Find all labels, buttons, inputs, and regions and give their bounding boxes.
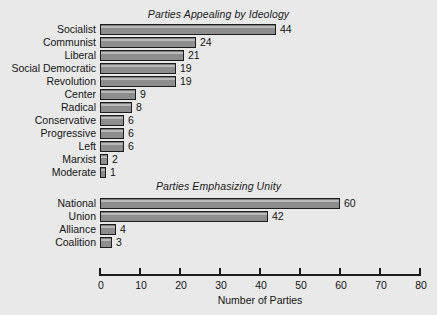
bar-row: National60 bbox=[0, 198, 437, 209]
bar-category-label: Marxist bbox=[0, 154, 96, 165]
bar-category-label: Union bbox=[0, 211, 96, 222]
x-axis-tick-label: 0 bbox=[81, 279, 121, 291]
bar bbox=[100, 76, 176, 87]
bar-row: Radical8 bbox=[0, 102, 437, 113]
bar bbox=[100, 63, 176, 74]
x-axis-tick-label: 80 bbox=[401, 279, 437, 291]
bar-category-label: Coalition bbox=[0, 237, 96, 248]
bar-row: Conservative6 bbox=[0, 115, 437, 126]
bar-category-label: National bbox=[0, 198, 96, 209]
x-axis-tick-label: 20 bbox=[161, 279, 201, 291]
bar-row: Marxist2 bbox=[0, 154, 437, 165]
bar-value-label: 4 bbox=[120, 224, 126, 235]
bar-category-label: Socialist bbox=[0, 24, 96, 35]
bar-row: Revolution19 bbox=[0, 76, 437, 87]
panel-bottom-title: Parties Emphasizing Unity bbox=[0, 180, 437, 192]
bar-category-label: Left bbox=[0, 141, 96, 152]
bar bbox=[100, 89, 136, 100]
panel-top-title: Parties Appealing by Ideology bbox=[0, 8, 437, 20]
bar-category-label: Progressive bbox=[0, 128, 96, 139]
bar-row: Communist24 bbox=[0, 37, 437, 48]
panel-parties-appealing-by-ideology: Parties Appealing by Ideology Socialist4… bbox=[0, 0, 437, 170]
bar-row: Center9 bbox=[0, 89, 437, 100]
bar-value-label: 19 bbox=[180, 63, 192, 74]
bar-value-label: 42 bbox=[272, 211, 284, 222]
x-axis-tick-label: 70 bbox=[361, 279, 401, 291]
bar-row: Socialist44 bbox=[0, 24, 437, 35]
bar-row: Social Democratic19 bbox=[0, 63, 437, 74]
bar bbox=[100, 198, 340, 209]
bar-row: Union42 bbox=[0, 211, 437, 222]
bar-row: Alliance4 bbox=[0, 224, 437, 235]
bar-value-label: 44 bbox=[280, 24, 292, 35]
x-axis-tick bbox=[299, 268, 301, 276]
x-axis-tick-label: 40 bbox=[241, 279, 281, 291]
x-axis-tick-label: 50 bbox=[281, 279, 321, 291]
bar bbox=[100, 37, 196, 48]
bar-row: Progressive6 bbox=[0, 128, 437, 139]
x-axis-tick-label: 60 bbox=[321, 279, 361, 291]
bar bbox=[100, 224, 116, 235]
x-axis-tick bbox=[419, 268, 421, 276]
bar-value-label: 24 bbox=[200, 37, 212, 48]
bar-category-label: Social Democratic bbox=[0, 63, 96, 74]
bar-category-label: Center bbox=[0, 89, 96, 100]
bar bbox=[100, 115, 124, 126]
bar-value-label: 6 bbox=[128, 128, 134, 139]
bar bbox=[100, 24, 276, 35]
x-axis-tick-label: 10 bbox=[121, 279, 161, 291]
bar-row: Liberal21 bbox=[0, 50, 437, 61]
x-axis-tick bbox=[219, 268, 221, 276]
x-axis: 01020304050607080 Number of Parties bbox=[0, 266, 437, 306]
x-axis-tick bbox=[259, 268, 261, 276]
bar-value-label: 6 bbox=[128, 115, 134, 126]
bar-category-label: Radical bbox=[0, 102, 96, 113]
bar-category-label: Liberal bbox=[0, 50, 96, 61]
bar-value-label: 19 bbox=[180, 76, 192, 87]
bar bbox=[100, 167, 106, 178]
bar-value-label: 9 bbox=[140, 89, 146, 100]
bar bbox=[100, 154, 108, 165]
bar-value-label: 21 bbox=[188, 50, 200, 61]
bar bbox=[100, 237, 112, 248]
bar-category-label: Communist bbox=[0, 37, 96, 48]
bar-row: Left6 bbox=[0, 141, 437, 152]
chart-figure: Parties Appealing by Ideology Socialist4… bbox=[0, 0, 437, 315]
bar-row: Coalition3 bbox=[0, 237, 437, 248]
panel-parties-emphasizing-unity: Parties Emphasizing Unity National60Unio… bbox=[0, 178, 437, 268]
bar-value-label: 2 bbox=[112, 154, 118, 165]
bar-value-label: 6 bbox=[128, 141, 134, 152]
x-axis-tick bbox=[99, 268, 101, 276]
bar-row: Moderate1 bbox=[0, 167, 437, 178]
bar-category-label: Alliance bbox=[0, 224, 96, 235]
x-axis-tick-label: 30 bbox=[201, 279, 241, 291]
x-axis-tick bbox=[379, 268, 381, 276]
bar-category-label: Conservative bbox=[0, 115, 96, 126]
x-axis-tick bbox=[339, 268, 341, 276]
bar-value-label: 1 bbox=[110, 167, 116, 178]
bar bbox=[100, 211, 268, 222]
x-axis-tick bbox=[139, 268, 141, 276]
bar-category-label: Revolution bbox=[0, 76, 96, 87]
bar-value-label: 3 bbox=[116, 237, 122, 248]
bar bbox=[100, 50, 184, 61]
bar-value-label: 60 bbox=[344, 198, 356, 209]
bar-category-label: Moderate bbox=[0, 167, 96, 178]
bar bbox=[100, 102, 132, 113]
x-axis-label: Number of Parties bbox=[100, 294, 420, 306]
bar-value-label: 8 bbox=[136, 102, 142, 113]
x-axis-tick bbox=[179, 268, 181, 276]
bar bbox=[100, 128, 124, 139]
bar bbox=[100, 141, 124, 152]
